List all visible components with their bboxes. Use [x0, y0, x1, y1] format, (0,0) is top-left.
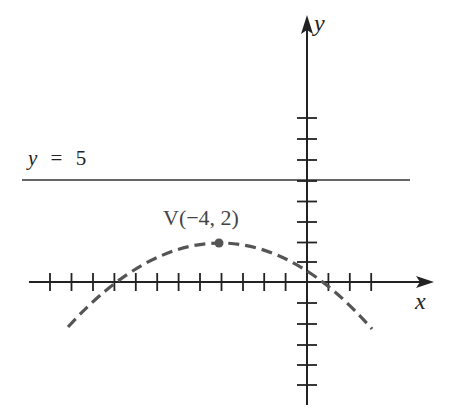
- vertex-point: [215, 239, 224, 248]
- line-label-val: 5: [76, 146, 87, 170]
- parabola-curve: [68, 243, 372, 329]
- vertex-label: V(−4, 2): [163, 205, 239, 231]
- line-label-var: y: [28, 146, 37, 170]
- y-axis-label: y: [314, 10, 325, 37]
- x-axis-label: x: [415, 288, 426, 315]
- line-label: y = 5: [28, 146, 86, 171]
- line-label-eq: =: [51, 146, 63, 170]
